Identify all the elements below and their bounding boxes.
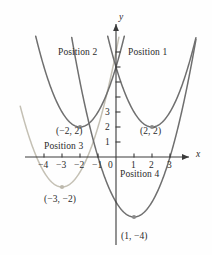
x-tick-label-zero: 0: [108, 161, 113, 171]
annotation-position-3: Position 3: [44, 142, 83, 152]
x-tick-label-minus3: −3: [56, 161, 66, 171]
annotation-position-2: Position 2: [58, 48, 97, 58]
x-tick-label-minus1: −1: [92, 161, 102, 171]
curve-position-4: [72, 37, 196, 217]
vertex-label-1-minus4: (1, −4): [121, 232, 148, 242]
y-axis-arrowhead: [113, 24, 119, 31]
vertex-marker-position-3: [60, 185, 64, 189]
annotation-position-1: Position 1: [128, 48, 167, 58]
x-axis-arrowhead: [182, 154, 189, 160]
y-axis-label: y: [119, 13, 123, 23]
annotation-position-4: Position 4: [120, 170, 159, 180]
x-tick-label-minus4: −4: [38, 161, 48, 171]
vertex-marker-position-4: [132, 215, 136, 219]
parabola-transformations-figure: x y −4 −3 −2 −1 0 1 2 3 1 2 3 Position 2…: [0, 0, 212, 255]
y-tick-label-3: 3: [105, 108, 110, 118]
x-tick-label-3: 3: [167, 161, 172, 171]
vertex-label-minus3-minus2: (−3, −2): [44, 195, 76, 205]
y-tick-label-1: 1: [105, 138, 110, 148]
vertex-label-minus2-2: (−2, 2): [56, 127, 83, 137]
x-axis-label: x: [196, 150, 200, 160]
y-tick-label-2: 2: [105, 123, 110, 133]
x-tick-label-minus2: −2: [74, 161, 84, 171]
vertex-label-2-2: (2, 2): [140, 127, 161, 137]
